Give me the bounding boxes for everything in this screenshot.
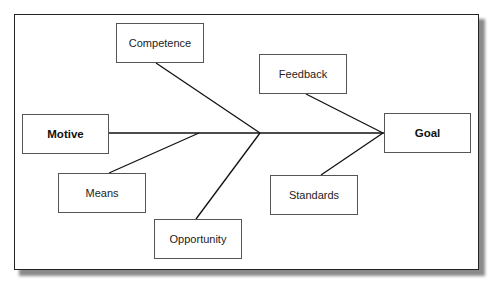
standards-box: Standards: [270, 175, 358, 215]
competence-connector: [156, 63, 260, 133]
means-label: Means: [85, 187, 118, 199]
opportunity-label: Opportunity: [170, 233, 227, 245]
standards-connector: [321, 133, 383, 175]
feedback-box: Feedback: [259, 54, 347, 94]
goal-label: Goal: [415, 127, 441, 139]
competence-label: Competence: [129, 37, 191, 49]
feedback-connector: [306, 94, 383, 133]
means-connector: [109, 133, 199, 173]
opportunity-box: Opportunity: [154, 219, 242, 259]
goal-box: Goal: [384, 113, 471, 153]
standards-label: Standards: [289, 189, 339, 201]
opportunity-connector: [196, 133, 260, 219]
competence-box: Competence: [116, 23, 204, 63]
motive-label: Motive: [47, 128, 83, 140]
motive-box: Motive: [22, 114, 109, 154]
means-box: Means: [58, 173, 146, 213]
feedback-label: Feedback: [279, 68, 327, 80]
